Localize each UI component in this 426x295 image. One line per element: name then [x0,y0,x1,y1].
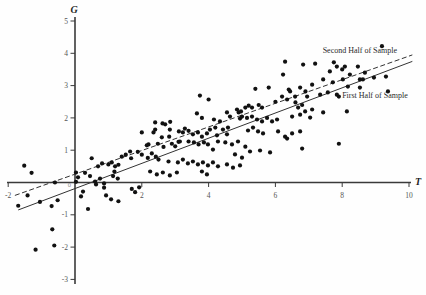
scatter-point [260,105,264,109]
scatter-point [363,71,367,75]
scatter-point [104,193,108,197]
scatter-point [361,77,365,81]
scatter-point [186,139,190,143]
scatter-point [56,198,60,202]
scatter-point [246,128,250,132]
scatter-point [128,149,132,153]
scatter-point [285,97,289,101]
scatter-point [186,129,190,133]
scatter-point [161,145,165,149]
scatter-point [288,89,292,93]
scatter-point [29,171,33,175]
scatter-point [76,175,80,179]
y-tick-label: -1 [62,210,68,219]
scatter-point [195,111,199,115]
scatter-point [216,164,220,168]
scatter-point [175,170,179,174]
scatter-point [283,60,287,64]
scatter-point [331,80,335,84]
plot-canvas: -224681054321-1-2-30 [0,0,426,295]
scatter-point [240,156,244,160]
scatter-point [16,204,20,208]
scatter-point [332,60,336,64]
scatter-point [221,127,225,131]
scatter-point [256,129,260,133]
scatter-point [384,74,388,78]
scatter-point [153,120,157,124]
scatter-point [238,163,242,167]
scatter-point [225,110,229,114]
scatter-plot-figure: -224681054321-1-2-30 G T Second Half of … [0,0,426,295]
scatter-point [196,162,200,166]
scatter-point [208,127,212,131]
scatter-point [335,64,339,68]
scatter-point [200,135,204,139]
scatter-point [200,169,204,173]
scatter-point [293,94,297,98]
scatter-point [321,110,325,114]
scatter-point [243,145,247,149]
scatter-point [140,153,144,157]
scatter-point [137,185,141,189]
scatter-point [343,64,347,68]
scatter-point [337,142,341,146]
scatter-point [177,129,181,133]
scatter-point [251,125,255,129]
scatter-point [268,150,272,154]
scatter-point [120,155,124,159]
scatter-point [345,109,349,113]
first-half-of-sample-label: First Half of Sample [342,90,408,99]
y-tick-label: 2 [64,114,68,123]
scatter-point [231,166,235,170]
scatter-point [93,179,97,183]
scatter-point [305,94,309,98]
scatter-point [255,117,259,121]
scatter-point [79,194,83,198]
scatter-point [170,142,174,146]
scatter-point [300,146,304,150]
scatter-point [213,125,217,129]
scatter-point [250,115,254,119]
scatter-point [341,77,345,81]
scatter-point [201,160,205,164]
scatter-point [240,115,244,119]
scatter-point [156,142,160,146]
scatter-point [308,115,312,119]
scatter-point [223,140,227,144]
scatter-point [38,200,42,204]
scatter-point [230,142,234,146]
scatter-point [111,174,115,178]
scatter-point [275,117,279,121]
scatter-point [261,131,265,135]
scatter-point [196,130,200,134]
y-axis-title: G [70,4,77,15]
scatter-point [181,157,185,161]
scatter-point [112,169,116,173]
scatter-point [74,180,78,184]
scatter-point [235,107,239,111]
y-tick-label: 1 [64,146,68,155]
scatter-point [168,127,172,131]
scatter-point [290,131,294,135]
scatter-point [276,129,280,133]
scatter-point [328,69,332,73]
scatter-point [313,62,317,66]
second-half-of-sample-label: Second Half of Sample [323,46,397,55]
scatter-point [225,132,229,136]
scatter-point [273,100,277,104]
scatter-point [348,73,352,77]
scatter-point [226,125,230,129]
scatter-point [202,140,206,144]
scatter-point [228,115,232,119]
scatter-point [130,187,134,191]
x-tick-label: -2 [5,191,11,200]
scatter-point [33,248,37,252]
scatter-point [116,163,120,167]
y-tick-label: 4 [64,49,68,58]
scatter-point [198,94,202,98]
scatter-point [236,139,240,143]
scatter-point [372,75,376,79]
scatter-point [300,103,304,107]
scatter-point [116,199,120,203]
scatter-point [96,164,100,168]
